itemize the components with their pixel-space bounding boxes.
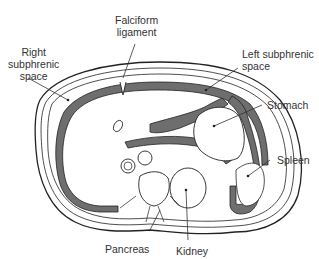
- label-stomach: Stomach: [267, 99, 308, 111]
- cross-section-illustration: [0, 0, 319, 259]
- aorta: [121, 159, 135, 173]
- label-falciform-ligament: Falciform ligament: [115, 14, 158, 38]
- label-kidney: Kidney: [176, 245, 208, 257]
- label-left-subphrenic-space: Left subphrenic space: [242, 48, 314, 72]
- stomach: [194, 107, 245, 161]
- kidney: [170, 168, 206, 208]
- label-right-subphrenic-space: Right subphrenic space: [8, 46, 59, 82]
- label-pancreas: Pancreas: [105, 243, 149, 255]
- label-spleen: Spleen: [277, 154, 310, 166]
- anatomy-diagram: Falciform ligament Right subphrenic spac…: [0, 0, 319, 259]
- ivc: [138, 151, 152, 165]
- spleen: [236, 163, 264, 206]
- vertebra: [139, 172, 169, 206]
